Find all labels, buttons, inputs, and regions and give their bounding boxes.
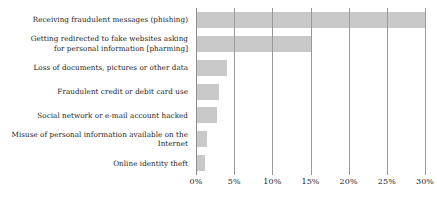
bar	[196, 84, 219, 100]
gridline	[425, 8, 426, 175]
category-label: Fraudulent credit or debit card use	[0, 87, 188, 96]
gridline	[349, 8, 350, 175]
bar	[196, 155, 205, 171]
gridline	[311, 8, 312, 175]
tick-label: 5%	[228, 177, 241, 186]
bar	[196, 131, 207, 147]
value-axis-line	[196, 8, 197, 175]
bar-chart: Receiving fraudulent messages (phishing)…	[0, 0, 437, 203]
gridline	[387, 8, 388, 175]
tick-label: 25%	[378, 177, 396, 186]
value-axis-tick-labels: 0% 5% 10% 15% 20% 25% 30%	[196, 177, 425, 193]
category-label: Social network or e-mail account hacked	[0, 111, 188, 120]
gridline	[234, 8, 235, 175]
category-label: Misuse of personal information available…	[0, 130, 188, 149]
bar	[196, 107, 217, 123]
category-label: Loss of documents, pictures or other dat…	[0, 63, 188, 72]
plot-area	[196, 8, 425, 175]
bar	[196, 60, 227, 76]
tick-label: 30%	[416, 177, 434, 186]
bar	[196, 36, 311, 52]
tick-label: 15%	[301, 177, 319, 186]
tick-label: 0%	[190, 177, 203, 186]
category-label: Receiving fraudulent messages (phishing)	[0, 15, 188, 24]
category-label: Getting redirected to fake websites aski…	[0, 34, 188, 53]
gridline	[272, 8, 273, 175]
tick-label: 10%	[263, 177, 281, 186]
category-label: Online identity theft	[0, 159, 188, 168]
tick-label: 20%	[340, 177, 358, 186]
category-axis-labels: Receiving fraudulent messages (phishing)…	[0, 8, 192, 175]
